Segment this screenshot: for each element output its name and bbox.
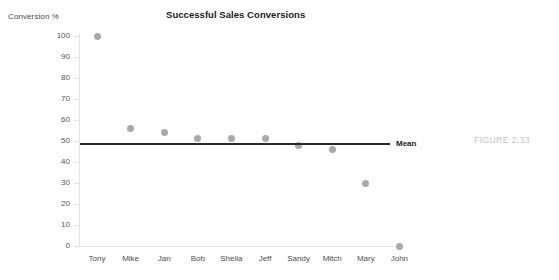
- y-axis-tick-label: 0: [40, 242, 70, 250]
- y-axis-tick-label: 100: [40, 32, 70, 40]
- y-axis-tick: [74, 246, 79, 247]
- data-point: [161, 129, 168, 136]
- data-point: [194, 135, 201, 142]
- y-axis-tick: [74, 78, 79, 79]
- y-axis-tick: [74, 57, 79, 58]
- mean-reference-line: [80, 143, 390, 145]
- y-axis-tick-label: 10: [40, 221, 70, 229]
- y-axis-tick: [74, 183, 79, 184]
- y-axis-tick-label: 90: [40, 53, 70, 61]
- y-axis-tick-label: 40: [40, 158, 70, 166]
- x-axis-tick-label: John: [374, 255, 424, 263]
- data-point: [94, 33, 101, 40]
- y-axis-tick: [74, 204, 79, 205]
- data-point: [127, 125, 134, 132]
- data-point: [396, 243, 403, 250]
- y-axis-tick: [74, 99, 79, 100]
- mean-line-label: Mean: [396, 139, 416, 148]
- y-axis-tick-label: 80: [40, 74, 70, 82]
- y-axis-tick-label: 20: [40, 200, 70, 208]
- y-axis-tick: [74, 141, 79, 142]
- y-axis-line: [79, 34, 80, 247]
- scatter-plot: 0102030405060708090100 TonyMikeJanBobShe…: [0, 0, 559, 280]
- data-point: [329, 146, 336, 153]
- data-point: [362, 180, 369, 187]
- data-point: [228, 135, 235, 142]
- y-axis-tick-label: 60: [40, 116, 70, 124]
- y-axis-tick: [74, 120, 79, 121]
- x-axis-line: [79, 246, 399, 247]
- figure-container: Conversion % Successful Sales Conversion…: [0, 0, 559, 280]
- y-axis-tick-label: 50: [40, 137, 70, 145]
- y-axis-tick: [74, 225, 79, 226]
- y-axis-tick-label: 70: [40, 95, 70, 103]
- y-axis-tick: [74, 36, 79, 37]
- y-axis-tick-label: 30: [40, 179, 70, 187]
- y-axis-tick: [74, 162, 79, 163]
- data-point: [262, 135, 269, 142]
